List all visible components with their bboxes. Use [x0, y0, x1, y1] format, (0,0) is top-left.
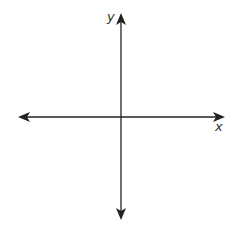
x-axis-label: x — [214, 119, 223, 134]
coordinate-plane: y x — [0, 0, 242, 236]
y-axis-label: y — [106, 9, 115, 24]
